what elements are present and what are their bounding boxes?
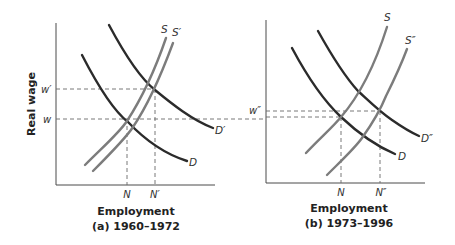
panel-a-employment-label-n: N: [123, 189, 131, 200]
panel-b-demand-curve-d-double-prime: [318, 31, 419, 136]
panel-b-employment-label-n-double-prime: N″: [375, 187, 386, 198]
panel-a-wage-label-w: w: [43, 114, 52, 125]
panel-b: S S″ D D″ w″ N N″ Employment (b) 1973–19…: [249, 11, 433, 230]
panel-b-label-s-double-prime: S″: [405, 34, 416, 46]
panel-a-caption: (a) 1960–1972: [92, 220, 180, 233]
panel-a-supply-curve-s: [85, 38, 166, 165]
panel-b-x-axis-title: Employment: [310, 202, 387, 215]
panel-b-wage-label-w-double-prime: w″: [249, 105, 261, 116]
panel-a-label-s-prime: S′: [172, 26, 182, 38]
panel-a-wage-label-w-prime: w′: [41, 84, 52, 95]
panel-b-employment-label-n: N: [337, 187, 345, 198]
panel-a-label-d: D: [189, 156, 197, 168]
y-axis-title: Real wage: [25, 72, 38, 136]
panel-a: S S′ D D′ w′ w N N′ Employment (a) 1960–…: [41, 23, 266, 233]
panel-a-supply-curve-s-prime: [93, 43, 173, 171]
panel-a-label-d-prime: D′: [215, 124, 226, 136]
panel-a-demand-curve-d-prime: [109, 25, 213, 128]
panel-b-label-d: D: [398, 150, 406, 162]
panel-a-x-axis-title: Employment: [97, 205, 174, 218]
panel-a-employment-label-n-prime: N′: [150, 189, 160, 200]
panel-b-label-d-double-prime: D″: [421, 132, 433, 144]
labor-market-diagram: Real wage S S′ D D′ w′ w N N′ Employment…: [0, 0, 455, 245]
panel-a-label-s: S: [161, 23, 168, 35]
panel-b-demand-curve-d: [292, 48, 395, 154]
panel-b-caption: (b) 1973–1996: [305, 217, 394, 230]
panel-b-label-s: S: [384, 11, 391, 23]
